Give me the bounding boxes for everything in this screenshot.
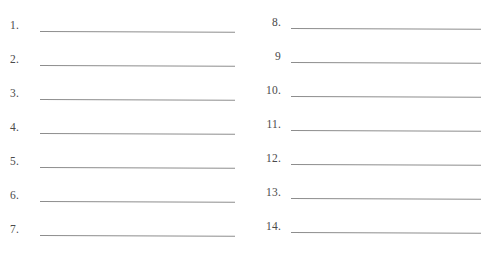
list-item[interactable]: 2. — [10, 34, 235, 68]
rule-line — [40, 31, 235, 33]
answer-write-line[interactable] — [291, 191, 481, 201]
entry-number: 8. — [253, 17, 281, 32]
answer-write-line[interactable] — [40, 126, 235, 136]
entry-number: 10. — [253, 85, 281, 100]
entry-number: 11. — [253, 119, 281, 134]
list-item[interactable]: 6. — [10, 170, 235, 204]
list-item[interactable]: 13. — [253, 167, 481, 201]
rule-line — [291, 28, 481, 30]
list-item[interactable]: 12. — [253, 133, 481, 167]
list-item[interactable]: 14. — [253, 201, 481, 235]
answer-write-line[interactable] — [40, 92, 235, 102]
entry-number: 1. — [10, 20, 30, 35]
rule-line — [291, 198, 481, 200]
entry-number: 13. — [253, 187, 281, 202]
entry-number: 12. — [253, 153, 281, 168]
answer-write-line[interactable] — [291, 89, 481, 99]
list-item[interactable]: 8. — [253, 0, 481, 31]
list-item[interactable]: 5. — [10, 136, 235, 170]
answer-write-line[interactable] — [40, 194, 235, 204]
left-column: 1. 2. 3. 4. 5. 6. 7. — [0, 0, 245, 253]
right-column: 8. 9 10. 11. 12. 13. 14. — [245, 0, 483, 253]
rule-line — [291, 232, 481, 234]
rule-line — [40, 167, 235, 169]
rule-line — [40, 235, 235, 237]
list-item[interactable]: 3. — [10, 68, 235, 102]
answer-write-line[interactable] — [40, 24, 235, 34]
rule-line — [291, 62, 481, 64]
list-item[interactable]: 11. — [253, 99, 481, 133]
list-item[interactable]: 7. — [10, 204, 235, 238]
list-item[interactable]: 1. — [10, 0, 235, 34]
rule-line — [291, 96, 481, 98]
rule-line — [40, 201, 235, 203]
entry-number: 14. — [253, 221, 281, 236]
answer-write-line[interactable] — [40, 228, 235, 238]
rule-line — [291, 164, 481, 166]
rule-line — [291, 130, 481, 132]
answer-write-line[interactable] — [291, 225, 481, 235]
answer-write-line[interactable] — [291, 55, 481, 65]
answer-write-line[interactable] — [40, 160, 235, 170]
entry-number: 3. — [10, 88, 30, 103]
rule-line — [40, 65, 235, 67]
answer-write-line[interactable] — [291, 123, 481, 133]
entry-number: 4. — [10, 122, 30, 137]
entry-number: 7. — [10, 224, 30, 239]
entry-number: 2. — [10, 54, 30, 69]
entry-number: 9 — [253, 51, 281, 66]
list-item[interactable]: 10. — [253, 65, 481, 99]
rule-line — [40, 99, 235, 101]
rule-line — [40, 133, 235, 135]
worksheet-page: 1. 2. 3. 4. 5. 6. 7. 8. — [0, 0, 483, 253]
list-item[interactable]: 4. — [10, 102, 235, 136]
answer-write-line[interactable] — [291, 21, 481, 31]
answer-write-line[interactable] — [291, 157, 481, 167]
answer-write-line[interactable] — [40, 58, 235, 68]
list-item[interactable]: 9 — [253, 31, 481, 65]
entry-number: 6. — [10, 190, 30, 205]
entry-number: 5. — [10, 156, 30, 171]
